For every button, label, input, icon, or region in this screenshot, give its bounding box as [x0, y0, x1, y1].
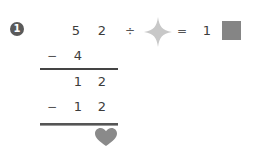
dividend-tens-digit: 5: [70, 24, 82, 38]
dividend-ones-digit: 2: [96, 24, 108, 38]
subtrahend-2-ones-digit: 2: [96, 100, 108, 114]
minus-sign-2: −: [47, 100, 57, 114]
problem-number-badge: 1: [10, 22, 24, 36]
equals-symbol: =: [177, 24, 187, 38]
remainder-ones-digit: 2: [96, 75, 108, 89]
heart-placeholder-icon: [95, 128, 117, 147]
subtraction-line-2: [40, 123, 118, 125]
subtraction-line-1: [40, 68, 118, 70]
divide-symbol: ÷: [125, 24, 135, 38]
star-placeholder-icon: [144, 17, 172, 47]
remainder-tens-digit: 1: [72, 75, 84, 89]
subtrahend-1-digit: 4: [72, 49, 84, 63]
square-placeholder-icon: [222, 21, 241, 40]
minus-sign-1: −: [47, 49, 57, 63]
quotient-tens-digit: 1: [201, 24, 213, 38]
subtrahend-2-tens-digit: 1: [72, 100, 84, 114]
